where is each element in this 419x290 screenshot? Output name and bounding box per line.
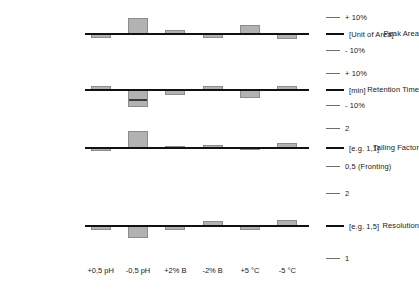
x-axis-label: +2% B: [164, 266, 186, 276]
baseline-axis: [85, 225, 309, 227]
legend-item: - 10%: [326, 100, 365, 110]
legend-tick-icon: [326, 73, 340, 74]
x-axis-label: +0,5 pH: [87, 266, 113, 276]
x-axis-labels: +0,5 pH-0,5 pH+2% B-2% B+5 °C-5 °C: [85, 266, 309, 278]
baseline-axis: [85, 147, 309, 149]
legend-item: 0,5 (Fronting): [326, 161, 391, 171]
legend-item: + 10%: [326, 12, 367, 22]
legend-item: [min]: [326, 85, 366, 95]
x-axis-label: -5 °C: [279, 266, 296, 276]
legend-label: 0,5 (Fronting): [345, 162, 391, 171]
legend-label: - 10%: [345, 46, 365, 55]
legend-tick-icon: [326, 89, 344, 91]
x-axis-label: -0,5 pH: [126, 266, 151, 276]
legend-label: + 10%: [345, 69, 367, 78]
legend-item: [e.g. 1,1]: [326, 143, 379, 153]
bar: [277, 34, 297, 39]
baseline-axis: [85, 89, 309, 91]
legend-item: 2: [326, 188, 349, 198]
legend-item: [e.g. 1,5]: [326, 221, 379, 231]
bar: [128, 90, 148, 107]
legend-label: [min]: [349, 86, 366, 95]
legend-label: + 10%: [345, 13, 367, 22]
legend-item: 1: [326, 253, 349, 263]
legend-item: + 10%: [326, 68, 367, 78]
bar: [128, 131, 148, 148]
bar: [128, 18, 148, 34]
bar: [128, 226, 148, 238]
bar: [165, 90, 185, 95]
legend-item: [Unit of Area]: [326, 29, 394, 39]
legend-tick-icon: [326, 33, 344, 35]
legend-tick-icon: [326, 225, 344, 227]
legend-label: 1: [345, 254, 349, 263]
legend-label: 2: [345, 124, 349, 133]
legend-item: 2: [326, 123, 349, 133]
x-axis-label: -2% B: [202, 266, 222, 276]
legend-tick-icon: [326, 17, 340, 18]
legend-label: [e.g. 1,1]: [349, 144, 379, 153]
legend-label: [e.g. 1,5]: [349, 222, 379, 231]
legend-tick-icon: [326, 166, 340, 167]
legend-label: - 10%: [345, 101, 365, 110]
legend-label: 2: [345, 189, 349, 198]
robustness-chart: Peak Area+ 10%[Unit of Area]- 10%Retenti…: [0, 0, 419, 290]
legend-label: [Unit of Area]: [349, 30, 394, 39]
legend-tick-icon: [326, 105, 340, 106]
baseline-axis: [85, 33, 309, 35]
legend-tick-icon: [326, 128, 340, 129]
bar: [240, 90, 260, 98]
legend-tick-icon: [326, 147, 344, 149]
legend-tick-icon: [326, 193, 340, 194]
legend-tick-icon: [326, 50, 340, 51]
legend-item: - 10%: [326, 45, 365, 55]
legend-tick-icon: [326, 258, 340, 259]
x-axis-label: +5 °C: [240, 266, 259, 276]
